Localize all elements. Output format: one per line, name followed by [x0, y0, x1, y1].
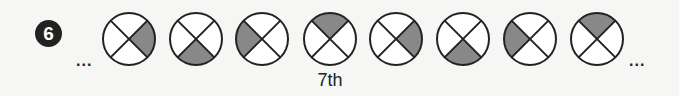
quadrant-circle-6 [435, 11, 491, 67]
quadrant-circle-4 [302, 11, 358, 67]
circle-quadrant-icon [569, 11, 625, 67]
circle-quadrant-icon [101, 11, 157, 67]
quadrant-circle-2 [168, 11, 224, 67]
quadrant-circle-5 [368, 11, 424, 67]
quadrant-circle-8 [569, 11, 625, 67]
quadrant-circle-1 [101, 11, 157, 67]
circle-quadrant-icon [368, 11, 424, 67]
circle-quadrant-icon [302, 11, 358, 67]
quadrant-circle-3 [234, 11, 290, 67]
leading-ellipsis: ... [76, 56, 92, 66]
circle-quadrant-icon [168, 11, 224, 67]
quadrant-circle-7 [502, 11, 558, 67]
position-label: 7th [300, 70, 360, 91]
circle-quadrant-icon [502, 11, 558, 67]
trailing-ellipsis: ... [629, 56, 645, 66]
problem-number-badge: 6 [35, 20, 62, 47]
circle-quadrant-icon [234, 11, 290, 67]
circle-quadrant-icon [435, 11, 491, 67]
